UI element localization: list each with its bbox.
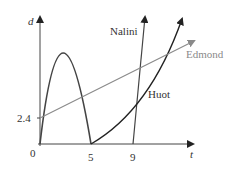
origin-label: 0	[30, 147, 36, 159]
tick-label-9: 9	[130, 151, 136, 163]
y-axis-label: d	[28, 15, 34, 27]
huot-curve	[91, 19, 182, 144]
tick-label-2-4: 2.4	[17, 112, 31, 124]
edmond-label: Edmond	[186, 48, 224, 60]
distance-time-chart: d t 0 5 9 2.4 Nalini Huot Edmond	[0, 0, 233, 169]
x-axis-label: t	[190, 148, 194, 160]
tick-label-5: 5	[88, 151, 94, 163]
nalini-label: Nalini	[110, 25, 138, 37]
nalini-hump-curve	[40, 53, 91, 144]
huot-label: Huot	[148, 88, 170, 100]
